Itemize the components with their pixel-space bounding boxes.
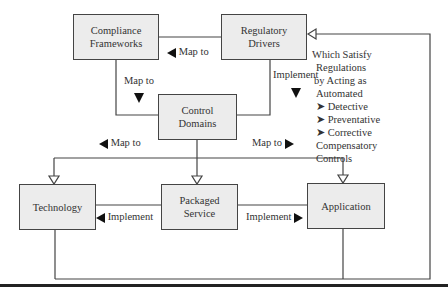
edge-label-text: Map to (111, 137, 141, 148)
node-label: Technology (33, 201, 82, 214)
note-bullet: ➤ Corrective (312, 126, 380, 139)
feedback-note: Which Satisfy Regulations by Acting as A… (312, 48, 380, 165)
edge-label-text: Implement (246, 211, 292, 222)
arrow-left-icon (167, 48, 176, 58)
arrow-right-icon (285, 139, 294, 149)
note-line: Regulations (312, 61, 380, 74)
edge-label-packaged-to-technology: Implement (96, 210, 153, 223)
node-label: Application (321, 200, 371, 213)
note-line: Compensatory (312, 139, 380, 152)
arrowhead-technology (49, 176, 59, 184)
node-application: Application (307, 183, 385, 229)
node-control-domains: ControlDomains (158, 94, 237, 140)
note-line: Automated (312, 87, 380, 100)
bottom-rule (0, 284, 448, 287)
bullet-arrow-icon: ➤ (316, 101, 325, 112)
edge-label-text: Implement (108, 211, 154, 222)
bullet-text: Preventative (328, 114, 380, 125)
arrow-down-icon (291, 88, 301, 98)
bullet-arrow-icon: ➤ (316, 127, 325, 138)
arrowhead-application (338, 175, 348, 183)
note-line: Which Satisfy (312, 48, 380, 61)
note-bullet: ➤ Preventative (312, 113, 380, 126)
edge-label-control-to-technology: Map to (99, 136, 141, 149)
edge-label-text: Map to (179, 46, 209, 57)
node-regulatory-drivers: RegulatoryDrivers (221, 14, 307, 60)
arrow-left-icon (99, 139, 108, 149)
edge-label-compliance-to-control: Map to (124, 74, 154, 103)
node-label: Frameworks (90, 37, 143, 50)
edge-label-text: Map to (252, 137, 282, 148)
node-label: Control (179, 104, 217, 117)
node-label: Regulatory (241, 24, 288, 37)
bullet-text: Detective (328, 101, 368, 112)
node-label: Drivers (241, 37, 288, 50)
node-technology: Technology (19, 184, 96, 230)
edge-label-control-to-application: Map to (252, 136, 294, 149)
node-packaged-service: PackagedService (161, 184, 238, 230)
arrowhead-regulatory (308, 29, 316, 39)
node-label: Service (179, 207, 219, 220)
arrow-down-icon (134, 93, 144, 103)
edge-label-packaged-to-application: Implement (246, 210, 303, 223)
bullet-text: Corrective (328, 127, 372, 138)
note-bullet: ➤ Detective (312, 100, 380, 113)
node-label: Domains (179, 117, 217, 130)
arrow-left-icon (96, 213, 105, 223)
arrowhead-packaged (192, 176, 202, 184)
node-label: Packaged (179, 194, 219, 207)
node-label: Compliance (90, 24, 143, 37)
note-line: Controls (312, 152, 380, 165)
edge-label-text: Map to (124, 74, 154, 87)
bullet-arrow-icon: ➤ (316, 114, 325, 125)
edge-label-regulatory-to-compliance: Map to (167, 45, 209, 58)
arrow-right-icon (294, 213, 303, 223)
note-line: by Acting as (312, 74, 380, 87)
node-compliance-frameworks: ComplianceFrameworks (73, 14, 159, 60)
